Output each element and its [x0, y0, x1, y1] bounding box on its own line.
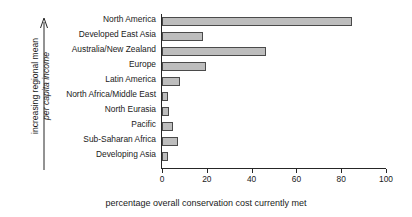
category-label: Developed East Asia [52, 30, 156, 39]
category-label: Europe [52, 60, 156, 69]
y-axis-label-group: increasing regional mean per capita inco… [0, 0, 40, 170]
category-label: North America [52, 15, 156, 24]
x-axis-tick [296, 169, 297, 173]
bar [162, 92, 168, 101]
bar [162, 152, 168, 161]
bar [162, 107, 169, 116]
y-axis-tick-labels: North America Developed East Asia Austra… [52, 14, 158, 168]
category-label: Pacific [52, 120, 156, 129]
bar [162, 17, 352, 26]
x-axis-tick-label: 60 [281, 174, 311, 184]
bar [162, 62, 206, 71]
x-axis-tick-label: 100 [371, 174, 401, 184]
x-axis-tick [386, 169, 387, 173]
plot-area: 020406080100 [162, 14, 386, 168]
bar [162, 47, 266, 56]
x-axis-tick [162, 169, 163, 173]
bar [162, 122, 173, 131]
x-axis-tick-label: 20 [192, 174, 222, 184]
category-label: Developing Asia [52, 150, 156, 159]
bar [162, 32, 203, 41]
x-axis-tick [207, 169, 208, 173]
x-axis-tick-label: 40 [237, 174, 267, 184]
category-label: Sub-Saharan Africa [52, 135, 156, 144]
category-label: North Africa/Middle East [52, 90, 156, 99]
bar [162, 77, 180, 86]
x-axis-title: percentage overall conservation cost cur… [0, 198, 412, 208]
x-axis-tick-label: 80 [326, 174, 356, 184]
up-arrow-icon [38, 14, 50, 170]
x-axis-line [161, 168, 386, 169]
x-axis-tick [341, 169, 342, 173]
x-axis-tick [252, 169, 253, 173]
x-axis-tick-label: 0 [147, 174, 177, 184]
category-label: Latin America [52, 75, 156, 84]
bar [162, 137, 178, 146]
bar-chart: increasing regional mean per capita inco… [0, 0, 412, 217]
category-label: North Eurasia [52, 105, 156, 114]
category-label: Australia/New Zealand [52, 45, 156, 54]
